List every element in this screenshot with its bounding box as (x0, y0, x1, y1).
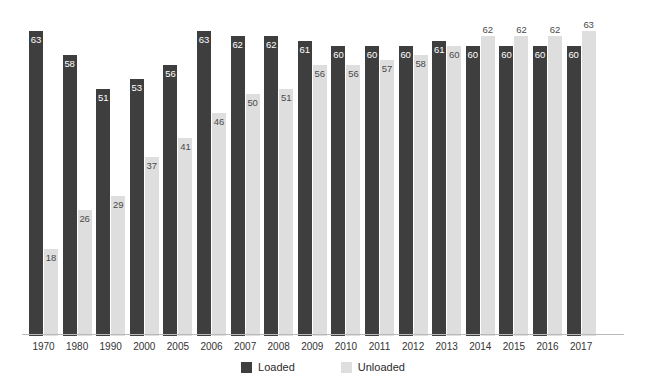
chart-legend: LoadedUnloaded (0, 358, 646, 376)
bar-value-label: 62 (481, 24, 495, 35)
bar-loaded-2006: 63 (197, 31, 211, 336)
legend-label: Unloaded (358, 361, 405, 373)
bar-value-label: 60 (533, 49, 547, 60)
bar-group: 6062 (499, 0, 528, 336)
bar-loaded-1970: 63 (29, 31, 43, 336)
bar-group: 5129 (96, 0, 125, 336)
bar-value-label: 51 (96, 92, 110, 103)
bar-unloaded-2006: 46 (212, 113, 226, 336)
x-tick-label-2017: 2017 (561, 340, 601, 354)
bar-loaded-2015: 60 (499, 46, 513, 336)
bar-value-label: 62 (548, 24, 562, 35)
bar-value-label: 63 (29, 34, 43, 45)
bar-value-label: 56 (346, 68, 360, 79)
x-axis-line (22, 334, 624, 335)
bar-loaded-1980: 58 (63, 55, 77, 336)
bar-value-label: 58 (63, 58, 77, 69)
bar-unloaded-2009: 56 (313, 65, 327, 336)
bar-loaded-2000: 53 (130, 79, 144, 336)
bar-group: 6160 (432, 0, 461, 336)
bar-group: 5337 (130, 0, 159, 336)
bar-unloaded-1980: 26 (78, 210, 92, 336)
bar-group: 5641 (163, 0, 192, 336)
plot-area: 6318582651295337564163466250625161566056… (0, 0, 646, 336)
bar-value-label: 61 (298, 44, 312, 55)
bar-loaded-2005: 56 (163, 65, 177, 336)
legend-item-unloaded[interactable]: Unloaded (341, 361, 405, 373)
bar-loaded-2008: 62 (264, 36, 278, 336)
bar-value-label: 57 (380, 63, 394, 74)
bar-value-label: 62 (514, 24, 528, 35)
bar-unloaded-1990: 29 (111, 196, 125, 336)
bar-value-label: 56 (163, 68, 177, 79)
bar-group: 6156 (298, 0, 327, 336)
bar-value-label: 62 (264, 39, 278, 50)
bar-group: 6251 (264, 0, 293, 336)
legend-swatch-unloaded-icon (341, 362, 352, 373)
bar-unloaded-2005: 41 (178, 138, 192, 336)
bar-value-label: 60 (466, 49, 480, 60)
bar-value-label: 56 (313, 68, 327, 79)
bar-value-label: 60 (365, 49, 379, 60)
bar-value-label: 60 (331, 49, 345, 60)
bar-unloaded-2011: 57 (380, 60, 394, 336)
bar-value-label: 41 (178, 141, 192, 152)
bar-chart: 6318582651295337564163466250625161566056… (0, 0, 646, 388)
bar-group: 6057 (365, 0, 394, 336)
bar-group: 5826 (63, 0, 92, 336)
bar-value-label: 63 (582, 19, 596, 30)
bar-unloaded-2007: 50 (246, 94, 260, 336)
bar-value-label: 29 (111, 199, 125, 210)
bar-unloaded-2015: 62 (514, 36, 528, 336)
bar-group: 6063 (567, 0, 596, 336)
bar-loaded-2012: 60 (399, 46, 413, 336)
bar-value-label: 18 (44, 252, 58, 263)
bar-unloaded-2000: 37 (145, 157, 159, 336)
bar-loaded-1990: 51 (96, 89, 110, 336)
bar-unloaded-2008: 51 (279, 89, 293, 336)
bar-value-label: 63 (197, 34, 211, 45)
bar-value-label: 50 (246, 97, 260, 108)
bar-value-label: 60 (399, 49, 413, 60)
bar-loaded-2007: 62 (231, 36, 245, 336)
bar-unloaded-2016: 62 (548, 36, 562, 336)
legend-label: Loaded (258, 361, 295, 373)
legend-item-loaded[interactable]: Loaded (241, 361, 295, 373)
bar-unloaded-2017: 63 (582, 31, 596, 336)
bar-loaded-2013: 61 (432, 41, 446, 336)
bar-unloaded-1970: 18 (44, 249, 58, 336)
bar-group: 6056 (331, 0, 360, 336)
bar-value-label: 53 (130, 82, 144, 93)
bar-unloaded-2010: 56 (346, 65, 360, 336)
bar-loaded-2016: 60 (533, 46, 547, 336)
bar-loaded-2011: 60 (365, 46, 379, 336)
bar-value-label: 60 (499, 49, 513, 60)
bar-loaded-2017: 60 (567, 46, 581, 336)
bar-loaded-2010: 60 (331, 46, 345, 336)
bar-group: 6318 (29, 0, 58, 336)
bar-unloaded-2012: 58 (414, 55, 428, 336)
bar-value-label: 51 (279, 92, 293, 103)
bar-value-label: 62 (231, 39, 245, 50)
bar-value-label: 26 (78, 213, 92, 224)
bar-value-label: 46 (212, 116, 226, 127)
bar-group: 6062 (466, 0, 495, 336)
bar-value-label: 37 (145, 160, 159, 171)
legend-swatch-loaded-icon (241, 362, 252, 373)
bar-loaded-2014: 60 (466, 46, 480, 336)
bar-group: 6346 (197, 0, 226, 336)
bar-group: 6062 (533, 0, 562, 336)
bar-unloaded-2013: 60 (447, 46, 461, 336)
bar-group: 6058 (399, 0, 428, 336)
bar-value-label: 60 (447, 49, 461, 60)
bar-unloaded-2014: 62 (481, 36, 495, 336)
bar-value-label: 58 (414, 58, 428, 69)
x-axis-tick-labels: 1970198019902000200520062007200820092010… (0, 340, 646, 356)
bar-value-label: 60 (567, 49, 581, 60)
bar-loaded-2009: 61 (298, 41, 312, 336)
bar-group: 6250 (231, 0, 260, 336)
bar-value-label: 61 (432, 44, 446, 55)
